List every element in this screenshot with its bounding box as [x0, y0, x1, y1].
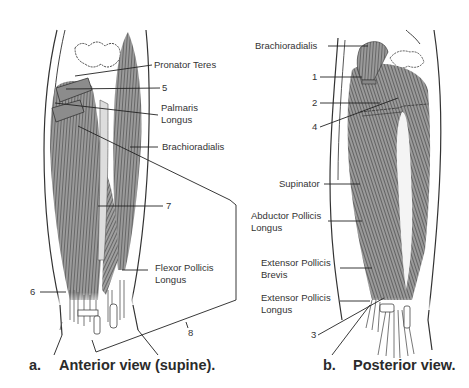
label-6: 6	[30, 286, 35, 298]
label-brachioradialis-posterior: Brachioradialis	[255, 40, 317, 52]
label-supinator: Supinator	[279, 178, 320, 190]
label-flexor-pollicis-longus-line1: Flexor Pollicis	[155, 262, 214, 274]
label-pronator-teres: Pronator Teres	[154, 59, 216, 71]
label-palmaris-longus-line2: Longus	[161, 114, 192, 126]
forearm-muscle-diagram	[0, 0, 469, 388]
label-abductor-pollicis-longus-line2: Longus	[251, 222, 282, 234]
label-8: 8	[188, 327, 193, 339]
caption-letter-b: b.	[323, 357, 353, 373]
caption-anterior-view: a.Anterior view (supine).	[29, 357, 215, 373]
caption-text-a: Anterior view (supine).	[59, 357, 215, 373]
label-4: 4	[312, 121, 317, 133]
label-3: 3	[311, 329, 316, 341]
caption-letter-a: a.	[29, 357, 59, 373]
label-2: 2	[312, 97, 317, 109]
label-extensor-pollicis-brevis-line1: Extensor Pollicis	[261, 257, 331, 269]
label-7: 7	[166, 200, 171, 212]
label-flexor-pollicis-longus-line2: Longus	[155, 274, 186, 286]
label-extensor-pollicis-brevis-line2: Brevis	[261, 269, 287, 281]
caption-text-b: Posterior view.	[353, 357, 456, 373]
posterior-forearm	[330, 30, 441, 358]
anterior-forearm	[44, 30, 158, 355]
label-1: 1	[312, 71, 317, 83]
label-5: 5	[162, 82, 167, 94]
label-extensor-pollicis-longus-line1: Extensor Pollicis	[261, 292, 331, 304]
label-extensor-pollicis-longus-line2: Longus	[261, 304, 292, 316]
caption-posterior-view: b.Posterior view.	[323, 357, 456, 373]
label-brachioradialis-anterior: Brachioradialis	[162, 141, 224, 153]
label-palmaris-longus-line1: Palmaris	[161, 102, 198, 114]
label-abductor-pollicis-longus-line1: Abductor Pollicis	[251, 210, 321, 222]
